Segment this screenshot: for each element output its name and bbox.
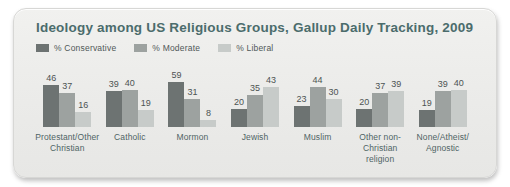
bar-group-catholic: 39 40 19 Catholic [99, 70, 162, 165]
bar-moderate [59, 93, 75, 127]
bar-liberal [75, 112, 91, 127]
bar-value: 19 [422, 98, 432, 108]
bar-value: 40 [454, 78, 464, 88]
bar-liberal [451, 90, 467, 127]
bar-moderate [122, 90, 138, 127]
bar-chart: 46 37 16 Protestant/Other Christian 39 [36, 70, 474, 165]
category-label: Catholic [114, 132, 146, 143]
bar-value: 44 [313, 75, 323, 85]
legend-swatch-liberal-icon [218, 44, 231, 52]
bar-group-jewish: 20 35 43 Jewish [224, 70, 287, 165]
bar-liberal [138, 110, 154, 127]
bar-moderate [247, 95, 263, 127]
bar-group-protestant: 46 37 16 Protestant/Other Christian [36, 70, 99, 165]
bar-value: 37 [62, 81, 72, 91]
bar-value: 23 [297, 94, 307, 104]
category-label: Muslim [304, 132, 332, 143]
bar-value: 19 [141, 98, 151, 108]
bar-value: 16 [78, 100, 88, 110]
category-label: Mormon [177, 132, 209, 143]
bar-conservative [43, 85, 59, 127]
bar-conservative [231, 109, 247, 127]
chart-title: Ideology among US Religious Groups, Gall… [36, 20, 474, 35]
bar-conservative [168, 82, 184, 127]
bar-group-muslim: 23 44 30 Muslim [286, 70, 349, 165]
bar-value: 31 [187, 87, 197, 97]
category-label: Protestant/Other Christian [35, 132, 99, 154]
bar-value: 39 [391, 79, 401, 89]
bar-liberal [200, 120, 216, 127]
bar-group-mormon: 59 31 8 Mormon [161, 70, 224, 165]
bar-value: 39 [438, 79, 448, 89]
bar-value: 43 [266, 75, 276, 85]
legend-label-conservative: % Conservative [54, 43, 116, 53]
bar-value: 30 [329, 87, 339, 97]
bar-group-other-non-christian: 20 37 39 Other non- Christian religion [349, 70, 412, 165]
bar-value: 37 [375, 81, 385, 91]
legend-item-liberal: % Liberal [218, 43, 273, 53]
legend-swatch-moderate-icon [134, 44, 147, 52]
legend-swatch-conservative-icon [36, 44, 49, 52]
bar-value: 59 [171, 70, 181, 80]
bar-moderate [310, 87, 326, 127]
bar-group-none-atheist-agnostic: 19 39 40 None/Atheist/ Agnostic [411, 70, 474, 165]
bar-value: 46 [46, 73, 56, 83]
bar-conservative [106, 91, 122, 127]
bar-conservative [356, 109, 372, 127]
bar-value: 39 [109, 79, 119, 89]
legend: % Conservative % Moderate % Liberal [36, 43, 474, 53]
bar-moderate [435, 91, 451, 127]
legend-item-moderate: % Moderate [134, 43, 200, 53]
bar-liberal [263, 87, 279, 127]
bar-value: 35 [250, 83, 260, 93]
bar-moderate [372, 93, 388, 127]
bar-liberal [326, 99, 342, 127]
bar-liberal [388, 91, 404, 127]
legend-label-liberal: % Liberal [236, 43, 273, 53]
category-label: Other non- Christian religion [349, 132, 412, 165]
legend-item-conservative: % Conservative [36, 43, 116, 53]
category-label: Jewish [242, 132, 269, 143]
bar-value: 40 [125, 78, 135, 88]
bar-conservative [419, 110, 435, 127]
bar-value: 20 [359, 97, 369, 107]
bar-conservative [294, 106, 310, 127]
legend-label-moderate: % Moderate [152, 43, 200, 53]
chart-card: Ideology among US Religious Groups, Gall… [13, 8, 497, 178]
category-label: None/Atheist/ Agnostic [417, 132, 469, 154]
bar-value: 8 [206, 108, 211, 118]
bar-moderate [184, 99, 200, 128]
bar-value: 20 [234, 97, 244, 107]
